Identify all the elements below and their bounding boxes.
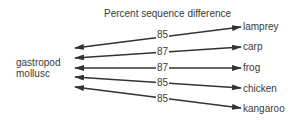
target-lamprey: lamprey <box>243 21 279 32</box>
target-carp: carp <box>243 41 262 52</box>
target-chicken: chicken <box>243 83 277 94</box>
source-label-line2: mollusc <box>16 68 60 79</box>
value-carp: 87 <box>156 47 169 57</box>
value-kangaroo: 85 <box>156 94 169 104</box>
value-frog: 87 <box>156 63 169 73</box>
diagram-title: Percent sequence difference <box>104 8 231 19</box>
value-lamprey: 85 <box>156 30 169 40</box>
target-frog: frog <box>243 62 260 73</box>
source-label: gastropod mollusc <box>16 57 60 79</box>
target-kangaroo: kangaroo <box>243 103 285 114</box>
source-label-line1: gastropod <box>16 57 60 68</box>
value-chicken: 85 <box>156 78 169 88</box>
